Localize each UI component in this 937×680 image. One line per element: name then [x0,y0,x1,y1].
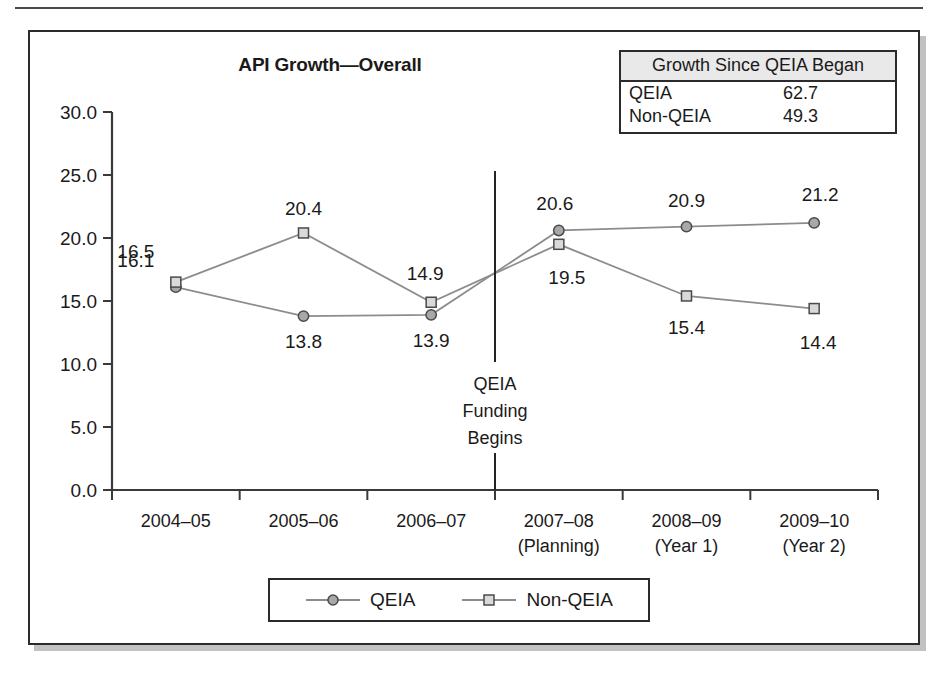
page-top-rule [15,7,923,9]
data-value-label: 14.4 [800,332,837,353]
x-tick-label: 2007–08 [524,511,594,531]
chart-annotation-group: QEIAFundingBegins [462,171,527,490]
data-value-label: 20.9 [668,190,705,211]
annotation-line: Begins [467,428,522,448]
data-point-marker [681,221,691,231]
data-point-marker [426,310,436,320]
line-chart-plot: 0.05.010.015.020.025.030.0 2004–052005–0… [30,32,918,643]
x-tick-label: 2008–09 [651,511,721,531]
y-tick-label: 25.0 [60,165,97,186]
data-value-label: 14.9 [407,263,444,284]
annotation-line: Funding [462,401,527,421]
data-value-label: 20.6 [536,193,573,214]
x-tick-label: 2005–06 [268,511,338,531]
x-tick-sublabel: (Year 2) [782,536,845,556]
legend-circle-marker-icon [305,592,361,608]
data-point-marker [554,225,564,235]
x-tick-label: 2009–10 [779,511,849,531]
data-point-marker [426,297,436,307]
legend-label: Non-QEIA [526,589,613,611]
legend-label: QEIA [370,589,415,611]
legend-square-marker-icon [461,592,517,608]
annotation-line: QEIA [473,374,516,394]
data-value-label: 13.8 [285,331,322,352]
data-value-label: 20.4 [285,198,322,219]
y-axis: 0.05.010.015.020.025.030.0 [60,102,112,501]
legend-item-qeia: QEIA [305,589,415,611]
chart-legend: QEIA Non-QEIA [268,578,650,622]
x-tick-sublabel: (Year 1) [655,536,718,556]
y-tick-label: 5.0 [71,417,97,438]
data-point-marker [809,304,819,314]
data-point-marker [554,239,564,249]
data-value-label: 16.5 [117,241,154,262]
data-value-label: 19.5 [548,267,585,288]
data-value-label: 15.4 [668,317,705,338]
y-tick-label: 20.0 [60,228,97,249]
x-tick-label: 2004–05 [141,511,211,531]
data-point-marker [809,218,819,228]
x-tick-sublabel: (Planning) [518,536,600,556]
data-point-marker [682,291,692,301]
data-point-marker [298,311,308,321]
data-label-group: 16.113.813.920.620.921.216.520.414.919.5… [117,184,838,353]
y-tick-label: 0.0 [71,480,97,501]
x-axis: 2004–052005–062006–072007–08(Planning)20… [112,490,878,556]
data-value-label: 21.2 [802,184,839,205]
x-tick-label: 2006–07 [396,511,466,531]
data-point-marker [299,228,309,238]
figure-frame: API Growth—Overall Growth Since QEIA Beg… [28,30,920,645]
y-tick-label: 30.0 [60,102,97,123]
data-value-label: 13.9 [413,330,450,351]
data-point-marker [171,277,181,287]
legend-item-non-qeia: Non-QEIA [461,589,613,611]
y-tick-label: 15.0 [60,291,97,312]
y-tick-label: 10.0 [60,354,97,375]
